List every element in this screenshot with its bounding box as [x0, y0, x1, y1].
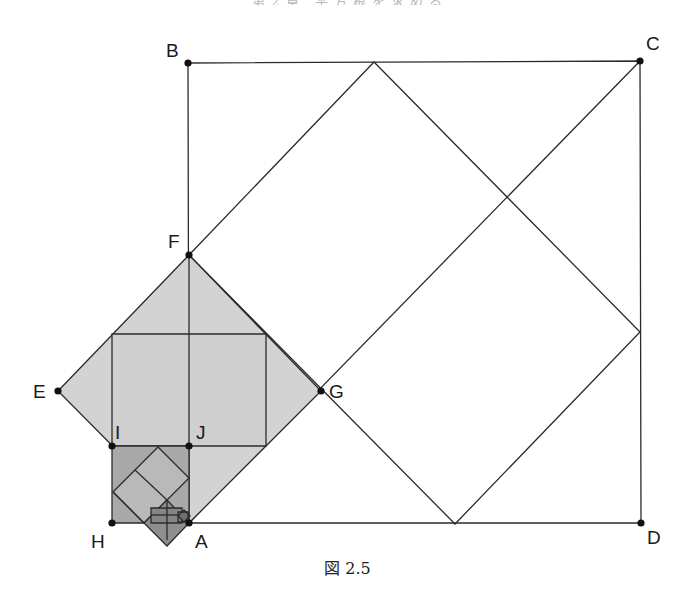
label-d: D	[647, 528, 661, 547]
point-b	[184, 59, 191, 66]
point-g	[317, 387, 324, 394]
figure-caption: 図 2.5	[0, 555, 695, 579]
label-e: E	[33, 382, 46, 401]
label-j: J	[196, 423, 206, 442]
point-d	[637, 519, 644, 526]
point-i	[108, 442, 115, 449]
label-i: I	[115, 423, 120, 442]
point-h	[108, 519, 115, 526]
label-h: H	[91, 532, 105, 551]
label-g: G	[329, 382, 344, 401]
point-f	[185, 251, 192, 258]
label-a: A	[195, 532, 208, 551]
point-a	[185, 519, 192, 526]
label-b: B	[166, 41, 179, 60]
point-j	[185, 442, 192, 449]
point-c	[636, 57, 643, 64]
label-f: F	[168, 232, 180, 251]
label-c: C	[646, 34, 660, 53]
geometry-figure	[0, 0, 695, 606]
point-e	[54, 387, 61, 394]
